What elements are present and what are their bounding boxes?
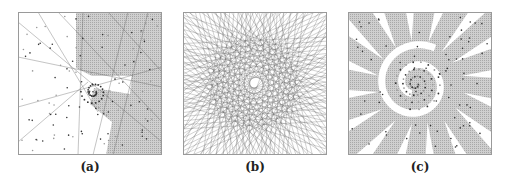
panel-a xyxy=(18,12,162,155)
panel-c-plot xyxy=(348,12,492,155)
caption-a: (a) xyxy=(18,160,162,174)
panel-a-plot xyxy=(18,12,162,155)
panel-b-plot xyxy=(183,12,327,155)
panel-c xyxy=(348,12,492,155)
caption-c: (c) xyxy=(348,160,492,174)
panel-b xyxy=(183,12,327,155)
caption-b: (b) xyxy=(183,160,327,174)
